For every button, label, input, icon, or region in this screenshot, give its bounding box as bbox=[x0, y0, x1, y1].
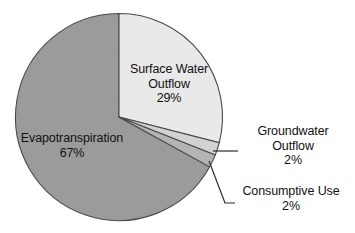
slice-label-evapotranspiration: Evapotranspiration 67% bbox=[8, 131, 136, 160]
pie-chart: Surface Water Outflow 29% Evapotranspira… bbox=[0, 0, 355, 233]
slice-label-line-1: Consumptive Use bbox=[231, 184, 351, 199]
slice-label-groundwater-outflow: Groundwater Outflow 2% bbox=[240, 124, 346, 168]
slice-label-line-2: Outflow bbox=[117, 77, 221, 92]
slice-value-surface-water-outflow: 29% bbox=[117, 91, 221, 106]
slice-value-consumptive-use: 2% bbox=[231, 199, 351, 214]
slice-label-consumptive-use: Consumptive Use 2% bbox=[231, 184, 351, 213]
slice-value-evapotranspiration: 67% bbox=[8, 146, 136, 161]
slice-label-line-1: Surface Water bbox=[117, 62, 221, 77]
slice-value-groundwater-outflow: 2% bbox=[240, 153, 346, 168]
slice-label-surface-water-outflow: Surface Water Outflow 29% bbox=[117, 62, 221, 106]
slice-label-line-1: Groundwater bbox=[240, 124, 346, 139]
slice-label-line-2: Outflow bbox=[240, 139, 346, 154]
slice-label-line-1: Evapotranspiration bbox=[8, 131, 136, 146]
